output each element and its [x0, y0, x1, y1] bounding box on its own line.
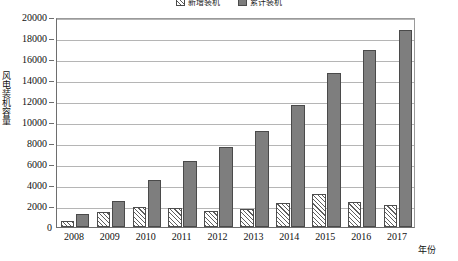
x-axis-tick-label: 2014 [269, 231, 309, 242]
bar-new-capacity[interactable] [276, 203, 290, 227]
bar-group [97, 19, 126, 227]
bar-group [168, 19, 197, 227]
x-axis-tick-label: 2008 [54, 231, 94, 242]
bar-cumulative-capacity[interactable] [148, 180, 162, 227]
x-axis-tick-label: 2010 [126, 231, 166, 242]
y-axis-tick-label: 10000 [1, 118, 47, 128]
wind-power-capacity-bar-chart: 新增装机 累计装机 风电装机容量 02000400060008000100001… [0, 0, 458, 261]
x-axis-tick-label: 2013 [233, 231, 273, 242]
y-axis-tick-label: 4000 [1, 181, 47, 191]
y-axis-tick-mark [49, 102, 54, 103]
x-axis-tick-label: 2009 [90, 231, 130, 242]
y-axis-tick-mark [49, 144, 54, 145]
bar-new-capacity[interactable] [204, 211, 218, 227]
bar-new-capacity[interactable] [348, 202, 362, 227]
bar-group [240, 19, 269, 227]
y-axis-tick-mark [49, 81, 54, 82]
bar-group [348, 19, 377, 227]
x-axis-title: 年份 [418, 245, 436, 255]
y-axis-tick-mark [49, 123, 54, 124]
bar-new-capacity[interactable] [168, 208, 182, 227]
y-axis-tick-mark [49, 165, 54, 166]
bar-new-capacity[interactable] [384, 205, 398, 227]
y-axis-tick-labels: 0200040006000800010000120001400016000180… [0, 0, 56, 261]
x-axis-tick-label: 2017 [377, 231, 417, 242]
bar-group [133, 19, 162, 227]
legend-item-cumulative-capacity[interactable]: 累计装机 [238, 0, 282, 7]
x-axis-tick-label: 2011 [162, 231, 202, 242]
y-axis-tick-mark [49, 60, 54, 61]
bar-cumulative-capacity[interactable] [363, 50, 377, 227]
bar-new-capacity[interactable] [97, 212, 111, 227]
bar-cumulative-capacity[interactable] [76, 214, 90, 227]
bar-cumulative-capacity[interactable] [219, 147, 233, 227]
legend-item-new-capacity[interactable]: 新增装机 [176, 0, 220, 7]
bar-new-capacity[interactable] [240, 209, 254, 227]
x-axis-tick-label: 2015 [305, 231, 345, 242]
bar-group [276, 19, 305, 227]
x-axis-tick-label: 2016 [341, 231, 381, 242]
hatched-swatch-icon [176, 0, 185, 6]
legend-label-new-capacity: 新增装机 [188, 0, 220, 7]
bar-cumulative-capacity[interactable] [291, 105, 305, 227]
bar-group [61, 19, 90, 227]
y-axis-tick-mark [49, 18, 54, 19]
y-axis-tick-mark [49, 39, 54, 40]
bar-series-container [57, 19, 414, 227]
y-axis-tick-mark [49, 207, 54, 208]
y-axis-tick-label: 2000 [1, 202, 47, 212]
bar-cumulative-capacity[interactable] [327, 73, 341, 227]
x-axis-tick-label: 2012 [198, 231, 238, 242]
bar-group [384, 19, 413, 227]
y-axis-tick-mark [49, 186, 54, 187]
y-axis-tick-label: 20000 [1, 13, 47, 23]
y-axis-tick-label: 18000 [1, 34, 47, 44]
bar-cumulative-capacity[interactable] [183, 161, 197, 227]
y-axis-tick-label: 0 [6, 223, 52, 233]
bar-new-capacity[interactable] [312, 194, 326, 227]
y-axis-tick-label: 14000 [1, 76, 47, 86]
y-axis-tick-label: 6000 [1, 160, 47, 170]
x-axis-tick-labels: 2008200920102011201220132014201520162017 [56, 231, 415, 245]
y-axis-tick-label: 16000 [1, 55, 47, 65]
bar-cumulative-capacity[interactable] [399, 30, 413, 227]
y-axis-tick-label: 8000 [1, 139, 47, 149]
bar-group [204, 19, 233, 227]
plot-area [56, 18, 415, 228]
legend-label-cumulative-capacity: 累计装机 [250, 0, 282, 7]
solid-gray-swatch-icon [238, 0, 247, 6]
bar-new-capacity[interactable] [133, 207, 147, 227]
bar-cumulative-capacity[interactable] [255, 131, 269, 227]
bar-cumulative-capacity[interactable] [112, 201, 126, 227]
bar-new-capacity[interactable] [61, 221, 75, 227]
chart-legend: 新增装机 累计装机 [0, 0, 458, 8]
bar-group [312, 19, 341, 227]
y-axis-tick-label: 12000 [1, 97, 47, 107]
